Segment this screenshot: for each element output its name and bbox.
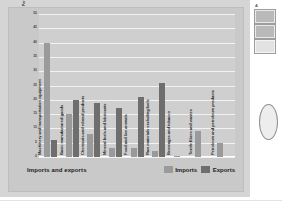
side-panel[interactable]: A <box>250 0 282 197</box>
chart-container[interactable]: Percentage of total 50454035302520151050… <box>8 7 244 192</box>
bar-group: Petroleum and petroleum products <box>213 14 235 157</box>
chart-legend: ImportsExports <box>164 166 235 173</box>
legend-swatch <box>164 166 173 173</box>
bar-exports <box>159 83 165 157</box>
y-axis-title: Percentage of total <box>22 0 26 42</box>
thumbnail-2[interactable] <box>254 24 276 39</box>
y-axis-tick-label: 40 <box>33 41 37 44</box>
thumbnail-3[interactable] <box>254 39 276 54</box>
category-label: Chemicals and related products <box>81 96 85 155</box>
bar-exports <box>138 97 144 157</box>
gridline <box>39 157 235 158</box>
legend-item: Imports <box>164 166 198 173</box>
bottom-divider <box>0 200 282 201</box>
page-bottom-margin <box>0 197 282 207</box>
legend-label: Imports <box>175 167 197 173</box>
thumbnail-1-preview <box>256 11 274 22</box>
bar-exports <box>73 100 79 157</box>
legend-swatch <box>201 166 210 173</box>
bar-imports <box>174 156 180 157</box>
legend-label: Exports <box>213 167 235 173</box>
category-label: Raw materials excluding fuels <box>146 99 150 155</box>
bar-imports <box>109 148 115 157</box>
plot-canvas: Machinery and transportation equipmentBa… <box>39 14 235 157</box>
bar-exports <box>51 140 57 157</box>
chart-title: Imports and exports <box>27 167 87 173</box>
category-label: Machinery and transportation equipment <box>38 79 42 155</box>
plot-area: Percentage of total 50454035302520151050… <box>23 14 237 157</box>
y-axis-tick-label: 50 <box>33 12 37 15</box>
bar-groups: Machinery and transportation equipmentBa… <box>39 14 235 157</box>
thumbnail-3-preview <box>256 41 274 52</box>
bar-imports <box>217 143 223 157</box>
panel-header-label: A <box>255 3 258 8</box>
thumbnail-2-preview <box>256 26 274 37</box>
slide-canvas[interactable]: Percentage of total 50454035302520151050… <box>0 0 250 197</box>
y-axis-tick-label: 35 <box>33 55 37 58</box>
bar-imports <box>66 114 72 157</box>
bar-imports <box>44 43 50 157</box>
oval-shape-icon[interactable] <box>259 104 278 140</box>
category-label: Petroleum and petroleum products <box>211 90 215 155</box>
chart-footer: Imports and exports ImportsExports <box>23 159 237 185</box>
bar-imports <box>195 131 201 157</box>
y-axis-tick-label: 30 <box>33 69 37 72</box>
thumbnail-1[interactable] <box>254 9 276 24</box>
legend-item: Exports <box>201 166 235 173</box>
category-label: Textile fibers and wastes <box>189 109 193 155</box>
category-label: Beverages and tobacco <box>167 111 171 155</box>
y-axis-tick-label: 45 <box>33 27 37 30</box>
bar-imports <box>152 151 158 157</box>
category-label: Mineral fuels and lubricants <box>103 103 107 155</box>
bar-exports <box>116 108 122 157</box>
bar-exports <box>94 103 100 157</box>
category-label: Basic manufactured goods <box>60 105 64 155</box>
category-label: Food and live animals <box>124 114 128 155</box>
bar-imports <box>131 148 137 157</box>
bar-imports <box>87 134 93 157</box>
